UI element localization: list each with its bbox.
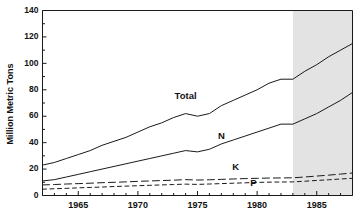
chart-container: 020406080100120140 19651970197519801985 … <box>0 0 364 224</box>
line-chart: 020406080100120140 19651970197519801985 … <box>0 0 364 224</box>
y-tick-label: 40 <box>29 137 39 147</box>
x-tick-label: 1980 <box>247 200 267 210</box>
total-label: Total <box>175 90 197 101</box>
forecast-shading-region <box>293 11 353 196</box>
p-label: P <box>250 177 257 188</box>
x-tick-label: 1970 <box>128 200 148 210</box>
k-label: K <box>232 161 239 172</box>
y-tick-label: 80 <box>29 84 39 94</box>
y-tick-label: 0 <box>34 190 39 200</box>
x-tick-label: 1965 <box>68 200 88 210</box>
y-tick-label: 140 <box>24 5 38 15</box>
y-axis-title: Million Metric Tons <box>5 64 15 145</box>
n-label: N <box>218 130 225 141</box>
x-tick-label: 1975 <box>187 200 207 210</box>
y-tick-label: 20 <box>29 163 39 173</box>
forecast-band <box>293 11 353 196</box>
y-tick-label: 100 <box>24 58 38 68</box>
y-tick-label: 120 <box>24 31 38 41</box>
x-tick-label: 1985 <box>307 200 327 210</box>
y-tick-label: 60 <box>29 110 39 120</box>
